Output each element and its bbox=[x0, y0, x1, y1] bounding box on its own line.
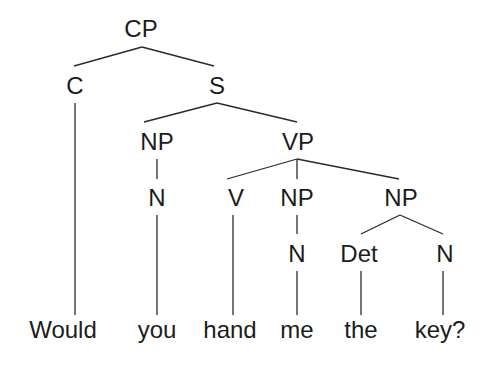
edge-np2-det bbox=[361, 215, 400, 234]
edge-np2-n bbox=[400, 215, 443, 234]
leaf-hand: hand bbox=[203, 316, 256, 343]
node-np-subject: NP bbox=[140, 128, 173, 155]
node-n-subject: N bbox=[148, 184, 165, 211]
node-np-object1: NP bbox=[280, 184, 313, 211]
leaf-key: key? bbox=[415, 316, 466, 343]
node-c: C bbox=[66, 72, 83, 99]
node-n-object1: N bbox=[288, 240, 305, 267]
edge-s-vp bbox=[217, 103, 297, 122]
node-np-object2: NP bbox=[384, 184, 417, 211]
tree-leaves: Would you hand me the key? bbox=[29, 316, 465, 343]
edge-vp-np2 bbox=[297, 159, 399, 179]
node-n-object2: N bbox=[436, 240, 453, 267]
edge-vp-v bbox=[227, 159, 297, 179]
node-vp: VP bbox=[282, 128, 314, 155]
node-det: Det bbox=[340, 240, 378, 267]
node-cp: CP bbox=[124, 15, 157, 42]
leaf-the: the bbox=[344, 316, 377, 343]
leaf-would: Would bbox=[29, 316, 97, 343]
tree-nodes: CP C S NP VP N V NP NP N Det N bbox=[66, 15, 453, 267]
node-v: V bbox=[228, 184, 244, 211]
tree-edges bbox=[74, 47, 443, 315]
edge-cp-c bbox=[74, 47, 142, 66]
leaf-you: you bbox=[138, 316, 177, 343]
leaf-me: me bbox=[280, 316, 313, 343]
syntax-tree: CP C S NP VP N V NP NP N Det N Would you… bbox=[0, 0, 498, 365]
node-s: S bbox=[209, 72, 225, 99]
edge-cp-s bbox=[142, 47, 214, 66]
edge-s-np bbox=[144, 103, 217, 122]
